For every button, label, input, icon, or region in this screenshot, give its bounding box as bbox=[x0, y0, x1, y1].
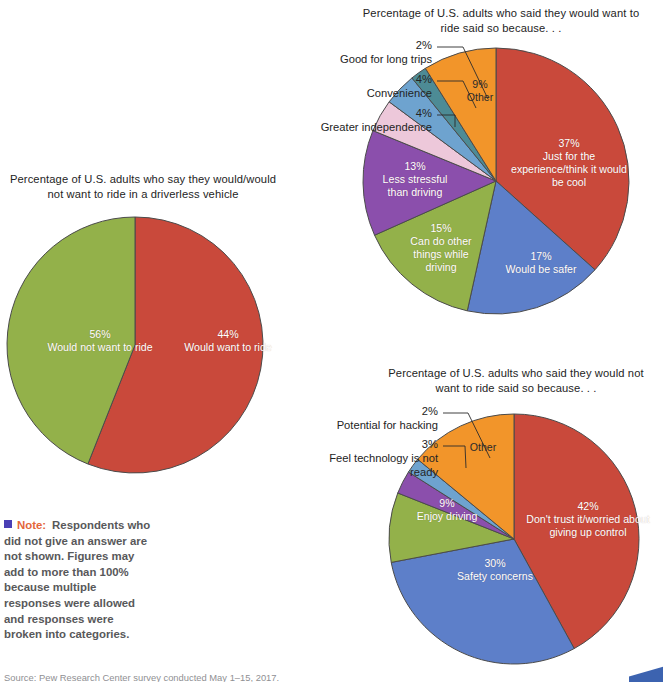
pie-slice-label: 15% Can do other things while driving bbox=[399, 222, 483, 274]
note-body: Respondents who did not give an answer a… bbox=[4, 519, 150, 640]
pie-slice-label: 30% Safety concerns bbox=[436, 557, 554, 583]
pie-slice-label: 44% Would want to ride bbox=[148, 328, 308, 354]
pie-slice-label: 9% Other bbox=[446, 78, 514, 104]
pie-slice-label: 37% Just for the experience/think it wou… bbox=[509, 137, 629, 189]
pie-slice-label: 17% Would be safer bbox=[489, 250, 593, 276]
page-corner-fold-decoration bbox=[629, 660, 663, 682]
note-block: Note:Respondents who did not give an ans… bbox=[4, 518, 154, 643]
note-bullet-icon bbox=[4, 520, 12, 528]
pie-callout-label: 2% Good for long trips bbox=[304, 38, 432, 66]
pie-callout-label: 4% Convenience bbox=[304, 72, 432, 100]
source-line: Source: Pew Research Center survey condu… bbox=[4, 672, 564, 682]
pie-slice-label: Other bbox=[452, 441, 514, 454]
note-label: Note: bbox=[17, 519, 46, 531]
pie-callout-label: 4% Greater independence bbox=[300, 106, 432, 134]
pie-slice-label: 42% Don't trust it/worried about giving … bbox=[526, 500, 650, 539]
pie-slice-label: 9% Enjoy driving bbox=[400, 497, 494, 523]
pie-callout-label: 3% Feel technology is not ready bbox=[306, 437, 438, 479]
pie-callout-label: 2% Potential for hacking bbox=[308, 404, 438, 432]
infographic-canvas: Percentage of U.S. adults who say they w… bbox=[0, 0, 663, 682]
pie-slice-label: 13% Less stressful than driving bbox=[371, 160, 459, 199]
